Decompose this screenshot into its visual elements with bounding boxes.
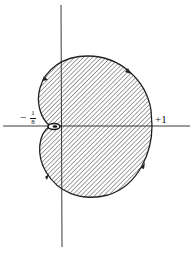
fraction-numerator: 1 [30,110,36,117]
nyquist-diagram [0,0,190,255]
arrow-icon [45,174,49,180]
fraction-denominator: 8 [30,119,36,126]
label-fraction: 1 8 [30,110,36,126]
label-plus-one: +1 [155,113,167,125]
label-minus: − [20,111,26,123]
